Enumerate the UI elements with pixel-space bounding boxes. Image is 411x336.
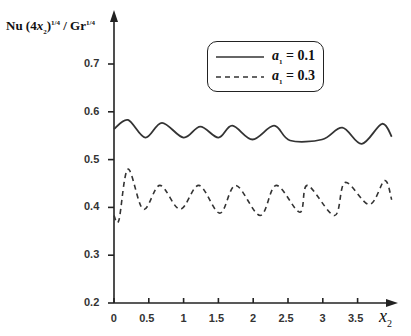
y-label-exp2: 1/4 [86, 19, 95, 27]
x-label-sub: 2 [387, 318, 392, 329]
x-tick-label: 1 [180, 312, 186, 324]
legend-eq: = 0.1 [283, 48, 315, 63]
x-tick-label: 3 [320, 312, 326, 324]
solid-line-swatch-icon [216, 48, 276, 66]
series-line-0 [114, 120, 392, 144]
x-tick-label: 0.5 [139, 312, 154, 324]
dashed-line-swatch-icon [216, 68, 276, 86]
plot-area [0, 0, 411, 336]
legend-eq: = 0.3 [283, 68, 315, 83]
y-tick-label: 0.6 [84, 105, 99, 117]
legend-var: a [272, 48, 279, 63]
y-axis-label: Nu (4x2)1/4 / Gr1/4 [6, 18, 95, 36]
x-tick-label: 0 [111, 312, 117, 324]
y-axis-arrow-icon [110, 10, 118, 22]
legend: a1 = 0.1 a1 = 0.3 [207, 41, 324, 92]
y-label-mid: / Gr [60, 18, 86, 33]
legend-label-0: a1 = 0.1 [272, 48, 315, 66]
legend-var: a [272, 68, 279, 83]
data-series [114, 120, 392, 223]
legend-label-1: a1 = 0.3 [272, 68, 315, 86]
y-tick-label: 0.7 [84, 57, 99, 69]
x-tick-label: 2.5 [278, 312, 293, 324]
x-tick-label: 2 [250, 312, 256, 324]
y-tick-label: 0.3 [84, 248, 99, 260]
legend-entry-solid: a1 = 0.1 [208, 48, 323, 66]
y-label-base: Nu (4 [6, 18, 37, 33]
x-axis-label: x2 [379, 306, 392, 329]
x-label-var: x [379, 306, 387, 326]
x-tick-label: 1.5 [209, 312, 224, 324]
y-tick-label: 0.5 [84, 153, 99, 165]
y-label-exp: 1/4 [51, 19, 60, 27]
legend-entry-dashed: a1 = 0.3 [208, 68, 323, 86]
y-tick-label: 0.2 [84, 296, 99, 308]
series-line-1 [114, 169, 392, 223]
y-tick-label: 0.4 [84, 200, 99, 212]
x-tick-label: 3.5 [348, 312, 363, 324]
